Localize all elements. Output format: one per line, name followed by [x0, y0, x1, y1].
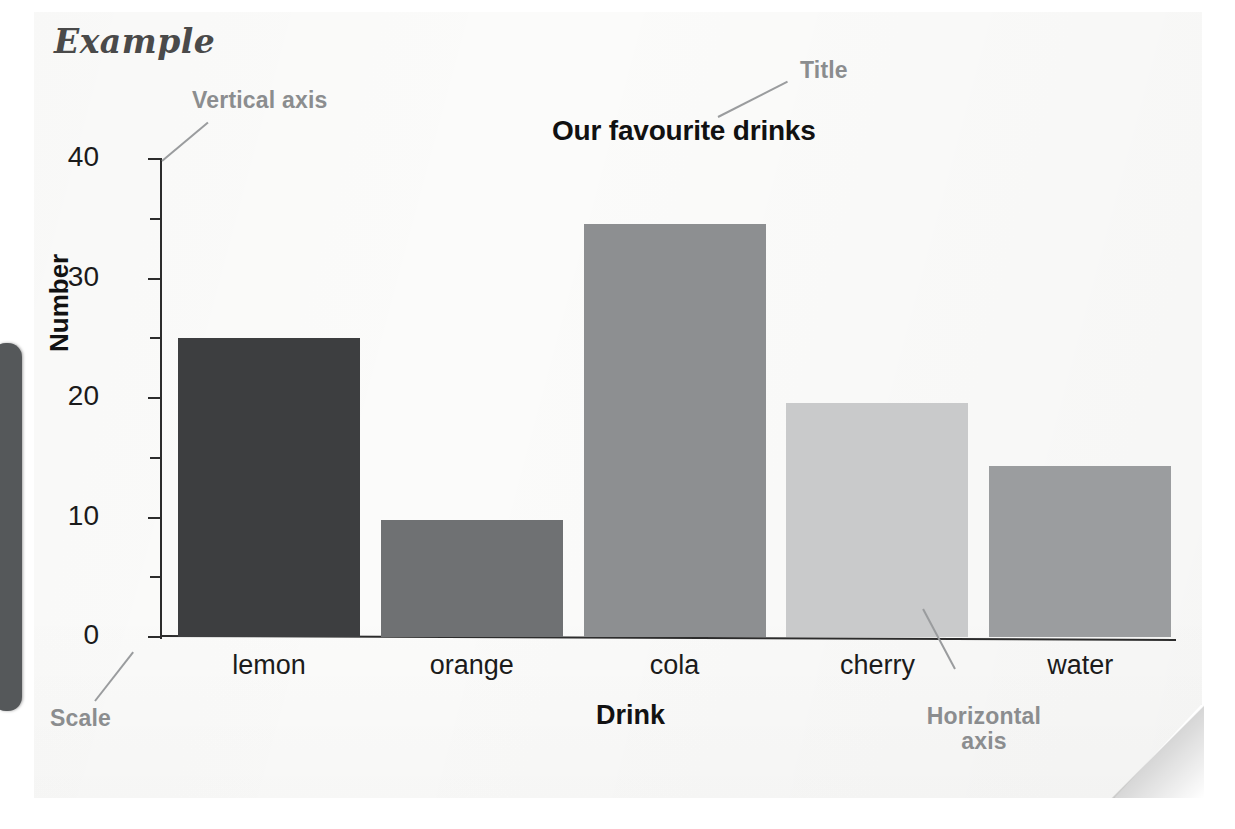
callout-horizontal-axis-line1: Horizontal: [898, 704, 1070, 729]
bar-cola: [584, 224, 766, 637]
callout-scale: Scale: [50, 706, 111, 731]
bar-series: [0, 0, 1235, 637]
worksheet-page: Example Our favourite drinks 010203040 N…: [0, 0, 1235, 829]
bar-orange: [381, 520, 563, 637]
category-label-lemon: lemon: [168, 650, 371, 681]
category-label-cola: cola: [573, 650, 776, 681]
category-label-orange: orange: [370, 650, 573, 681]
callout-vertical-axis: Vertical axis: [192, 88, 328, 113]
category-label-water: water: [979, 650, 1182, 681]
bar-water: [989, 466, 1171, 637]
horizontal-axis-title: Drink: [596, 700, 665, 731]
callout-horizontal-axis-line2: axis: [898, 729, 1070, 754]
bar-lemon: [178, 338, 360, 637]
callout-title: Title: [800, 58, 848, 83]
callout-horizontal-axis: Horizontal axis: [898, 704, 1070, 754]
bar-cherry: [786, 403, 968, 637]
